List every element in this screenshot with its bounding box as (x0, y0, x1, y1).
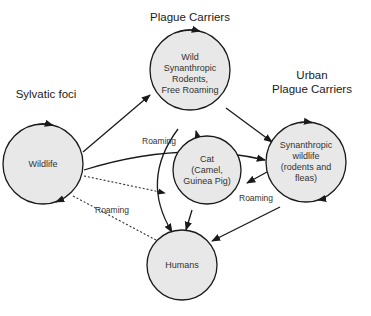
edge-label-roaming: Roaming (95, 205, 129, 215)
edge-wildlife-to-cat-dotted (84, 176, 165, 193)
edge-label-roaming: Roaming (142, 136, 176, 146)
edge-cat-to-humans (186, 210, 192, 230)
edge-rodents-to-synanthropic (226, 108, 272, 142)
node-synanthropic-wildlife[interactable]: Synanthropic wildlife (rodents and fleas… (266, 122, 346, 202)
node-label: (Camel, (191, 165, 223, 175)
edge-wildlife-to-rodents (83, 95, 150, 152)
node-label: Cat (200, 154, 215, 164)
node-label: Free Roaming (161, 85, 218, 95)
node-label: Wild (181, 52, 199, 62)
node-label: Wildlife (28, 159, 57, 169)
edge-synanthropic-to-humans (212, 207, 280, 241)
plague-transmission-diagram: Plague Carriers Sylvatic foci Urban Plag… (0, 0, 371, 316)
node-label: Rodents, (172, 74, 208, 84)
node-label: Synanthropic (164, 63, 217, 73)
node-label: Humans (165, 260, 199, 270)
heading-plague-carriers: Plague Carriers (150, 11, 230, 23)
node-wild-rodents[interactable]: Wild Synanthropic Rodents, Free Roaming (150, 30, 230, 110)
node-wildlife[interactable]: Wildlife (3, 124, 83, 204)
heading-sylvatic-foci: Sylvatic foci (16, 88, 77, 100)
edge-synanthropic-to-cat (247, 172, 267, 183)
heading-urban: Urban (296, 69, 327, 81)
node-label: wildlife (291, 151, 319, 161)
node-label: (rodents and (281, 162, 332, 172)
heading-urban-plague-carriers: Plague Carriers (272, 83, 352, 95)
node-label: fleas) (295, 173, 317, 183)
node-label: Synanthropic (280, 140, 333, 150)
node-cat[interactable]: Cat (Camel, Guinea Pig) (173, 136, 241, 204)
node-label: Guinea Pig) (183, 176, 231, 186)
edge-label-roaming: Roaming (239, 193, 273, 203)
edge-wildlife-to-humans-dotted (73, 196, 156, 240)
node-humans[interactable]: Humans (147, 230, 217, 300)
